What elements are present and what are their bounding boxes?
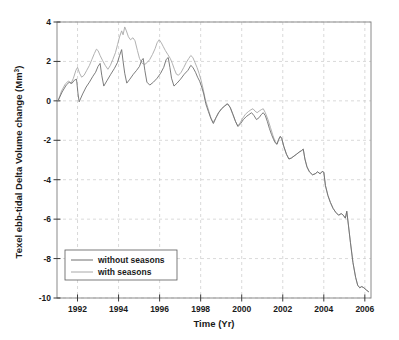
y-tick-label: 2 [46,56,51,66]
x-tick-label: 2004 [314,304,333,314]
x-axis-tick-labels: 19921994199619982000200220042006 [68,304,375,314]
x-axis-title: Time (Yr) [193,318,234,329]
x-tick-label: 1994 [109,304,128,314]
x-tick-label: 2000 [232,304,251,314]
y-tick-label: -6 [43,214,51,224]
y-axis-title: Texel ebb-tidal Delta Volume change (Mm3… [13,66,25,259]
x-tick-label: 2006 [355,304,374,314]
y-tick-label: -10 [39,293,52,303]
y-tick-label: -2 [43,135,51,145]
x-tick-label: 1998 [191,304,210,314]
y-tick-label: -4 [43,175,51,185]
x-tick-label: 2002 [273,304,292,314]
x-tick-label: 1996 [150,304,169,314]
chart-figure: 19921994199619982000200220042006 420-2-4… [0,0,399,340]
y-axis-title: Texel ebb-tidal Delta Volume change (Mm3… [13,66,25,259]
y-tick-label: -8 [43,254,51,264]
y-tick-label: 4 [46,17,51,27]
x-tick-label: 1992 [68,304,87,314]
chart-legend: without seasonswith seasons [65,250,177,280]
y-tick-label: 0 [46,96,51,106]
legend-item-label: without seasons [97,255,165,265]
legend-item-label: with seasons [97,267,152,277]
line-chart: 19921994199619982000200220042006 420-2-4… [0,0,399,340]
y-axis-tick-labels: 420-2-4-6-8-10 [39,17,52,303]
